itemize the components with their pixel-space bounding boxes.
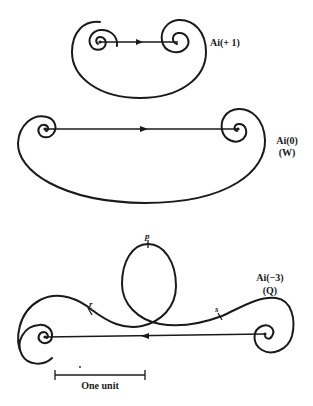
bottom-right-focus-dot	[263, 332, 266, 335]
figure-top-curve	[72, 20, 206, 98]
stray-dot	[79, 366, 81, 368]
figure-bottom-label: Ai(−3)	[250, 272, 290, 284]
top-arrow-right-icon	[136, 39, 143, 45]
bottom-left-focus-dot	[43, 335, 46, 338]
figure-middle-curve	[18, 109, 265, 203]
bottom-arrow-left-icon	[141, 333, 149, 339]
middle-left-focus-dot	[43, 127, 46, 130]
middle-right-focus-dot	[236, 127, 239, 130]
scale-bar	[55, 366, 145, 380]
top-outer-loop	[72, 20, 206, 98]
middle-outer-loop	[18, 109, 265, 203]
figure-bottom-curve	[18, 240, 293, 364]
bottom-connector-line	[45, 334, 265, 337]
top-left-focus-dot	[98, 40, 101, 43]
point-s-label: s	[215, 303, 219, 315]
diagram-canvas	[0, 0, 313, 406]
point-p-label: p	[145, 230, 150, 242]
point-r-label: r	[89, 298, 93, 310]
figure-bottom-sublabel: (Q)	[250, 285, 290, 297]
figure-middle-sublabel: (W)	[271, 147, 303, 159]
bottom-outer-curve	[18, 244, 293, 364]
figure-middle-label: Ai(0)	[271, 135, 303, 147]
scale-bar-label: One unit	[55, 380, 145, 392]
figure-top-label: Ai(+ 1)	[210, 37, 240, 49]
middle-arrow-right-icon	[140, 126, 148, 132]
